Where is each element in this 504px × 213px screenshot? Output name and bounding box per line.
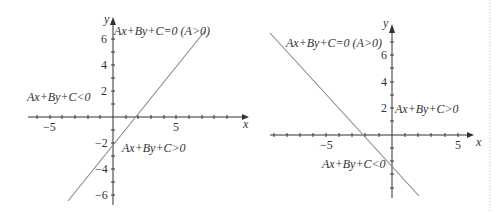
left-y-tick-6: 6 (101, 32, 107, 46)
right-line-label: Ax+By+C=0 (A>0) (285, 36, 382, 50)
right-y-axis-label: y (382, 16, 389, 30)
right-x-arrow-icon (467, 132, 474, 138)
left-region-positive-label: Ax+By+C>0 (121, 141, 186, 155)
left-y-tick-n6: −6 (95, 188, 108, 202)
left-x-axis-label: x (242, 117, 249, 131)
left-x-tick-neg5: −5 (43, 120, 56, 134)
right-y-tick-6: 6 (381, 48, 387, 62)
left-boundary-line (68, 31, 205, 201)
right-region-positive-label: Ax+By+C>0 (394, 102, 459, 116)
figure-canvas: −5 5 6 4 2 −2 −4 −6 x y Ax+By+C=0 (A>0) … (0, 0, 504, 213)
left-y-tick-4: 4 (101, 58, 107, 72)
left-panel: −5 5 6 4 2 −2 −4 −6 x y Ax+By+C=0 (A>0) … (26, 12, 249, 205)
right-x-axis-label: x (475, 135, 482, 149)
left-y-axis-label: y (103, 12, 110, 26)
left-region-negative-label: Ax+By+C<0 (26, 90, 91, 104)
left-y-tick-n2: −2 (95, 136, 108, 150)
left-y-tick-2: 2 (101, 84, 107, 98)
right-y-tick-2: 2 (381, 101, 387, 115)
left-line-label: Ax+By+C=0 (A>0) (113, 24, 210, 38)
right-region-negative-label: Ax+By+C<0 (321, 157, 386, 171)
left-y-tick-n4: −4 (95, 162, 108, 176)
left-x-tick-pos5: 5 (173, 120, 179, 134)
right-x-tick-pos5: 5 (455, 138, 461, 152)
right-panel: −5 5 6 4 2 x y Ax+By+C=0 (A>0) Ax+By+C>0… (270, 16, 482, 198)
right-x-tick-neg5: −5 (320, 138, 333, 152)
right-y-tick-4: 4 (381, 75, 387, 89)
right-y-arrow-icon (389, 24, 395, 33)
